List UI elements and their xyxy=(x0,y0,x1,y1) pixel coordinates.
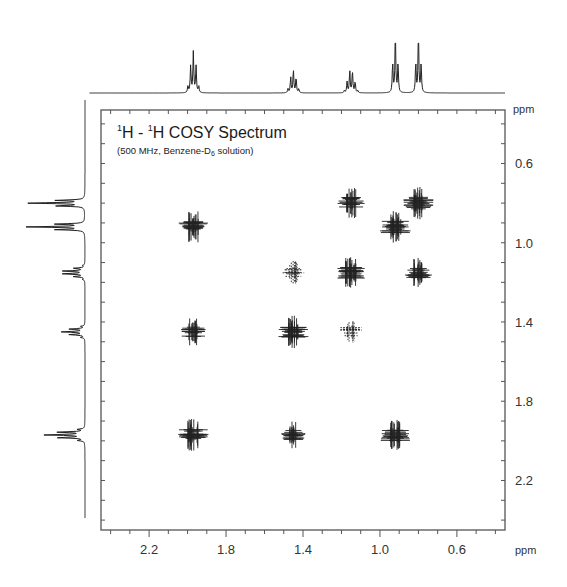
cross-peak xyxy=(338,188,365,218)
y-axis-tick-labels: 0.61.01.41.82.2 xyxy=(515,156,533,488)
svg-text:1.8: 1.8 xyxy=(217,542,235,557)
top-1d-projection-spectrum xyxy=(90,43,506,93)
cross-peaks xyxy=(178,187,433,451)
cross-peak xyxy=(381,420,410,450)
cross-peak xyxy=(181,318,206,345)
cross-peak xyxy=(380,211,411,242)
chart-title-block: 1H - 1H COSY Spectrum (500 MHz, Benzene-… xyxy=(117,119,287,157)
cross-peak xyxy=(179,211,208,242)
svg-text:1.4: 1.4 xyxy=(294,542,312,557)
chart-subtitle: (500 MHz, Benzene-D6 solution) xyxy=(117,145,287,157)
cross-peak xyxy=(281,422,305,449)
cross-peak xyxy=(337,257,364,287)
cross-peak xyxy=(278,316,308,348)
svg-text:2.2: 2.2 xyxy=(140,542,158,557)
cross-peak xyxy=(405,258,432,287)
svg-text:1.8: 1.8 xyxy=(515,394,533,409)
chart-title: 1H - 1H COSY Spectrum xyxy=(117,119,287,142)
axis-ticks xyxy=(101,110,505,537)
x-axis-unit-label: ppm xyxy=(515,544,536,556)
cross-peak xyxy=(283,261,305,284)
svg-text:1.4: 1.4 xyxy=(515,315,533,330)
svg-text:0.6: 0.6 xyxy=(515,156,533,171)
svg-text:1.0: 1.0 xyxy=(371,542,389,557)
cross-peak xyxy=(178,419,208,451)
cross-peak xyxy=(404,187,434,219)
y-axis-unit-label: ppm xyxy=(513,103,534,115)
cross-peak xyxy=(340,321,362,342)
plot-frame xyxy=(101,110,505,530)
svg-text:0.6: 0.6 xyxy=(448,542,466,557)
cosy-chart: 2.21.81.41.00.6 0.61.01.41.82.2 ppm ppm xyxy=(0,0,567,587)
svg-text:2.2: 2.2 xyxy=(515,473,533,488)
left-1d-projection-spectrum xyxy=(26,100,85,518)
x-axis-tick-labels: 2.21.81.41.00.6 xyxy=(140,542,466,557)
svg-text:1.0: 1.0 xyxy=(515,236,533,251)
